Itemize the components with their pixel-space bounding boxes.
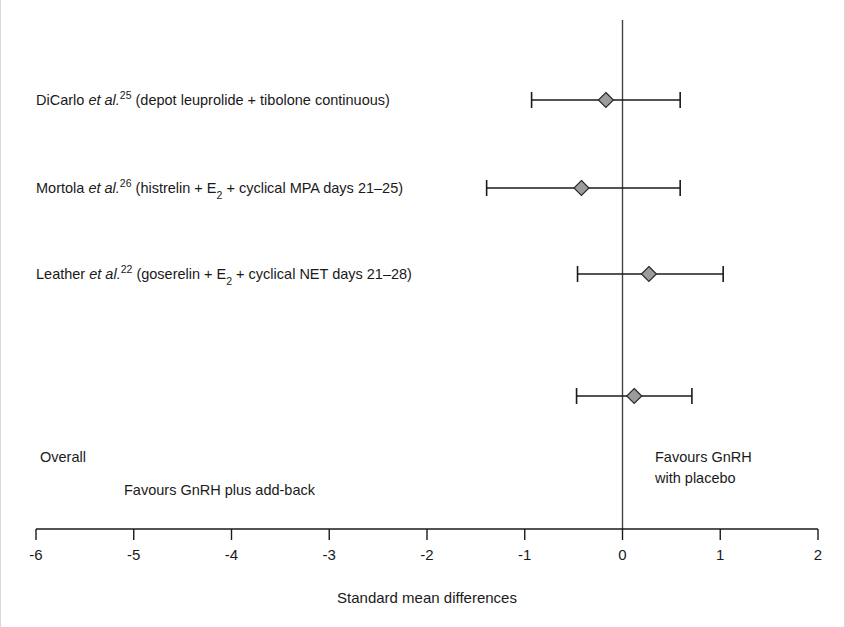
x-axis-tick-label: -4 bbox=[225, 546, 238, 563]
x-axis-tick-label: 2 bbox=[814, 546, 822, 563]
x-axis-tick-label: -1 bbox=[518, 546, 531, 563]
favours-left-annotation: Favours GnRH plus add-back bbox=[124, 482, 316, 498]
favours-right-annotation-line2: with placebo bbox=[654, 470, 736, 486]
favours-right-annotation-line1: Favours GnRH bbox=[655, 449, 752, 465]
x-axis-tick-label: 1 bbox=[716, 546, 724, 563]
x-axis-tick-label: 0 bbox=[618, 546, 626, 563]
x-axis-tick-label: -3 bbox=[323, 546, 336, 563]
x-axis-title: Standard mean differences bbox=[337, 589, 517, 606]
study-label: DiCarlo et al.25 (depot leuprolide + tib… bbox=[36, 89, 390, 108]
x-axis-tick-label: -5 bbox=[127, 546, 140, 563]
forest-plot-canvas: DiCarlo et al.25 (depot leuprolide + tib… bbox=[0, 0, 845, 627]
overall-label: Overall bbox=[40, 449, 86, 465]
x-axis-tick-label: -2 bbox=[420, 546, 433, 563]
forest-plot-figure: DiCarlo et al.25 (depot leuprolide + tib… bbox=[0, 0, 845, 627]
x-axis-tick-label: -6 bbox=[29, 546, 42, 563]
